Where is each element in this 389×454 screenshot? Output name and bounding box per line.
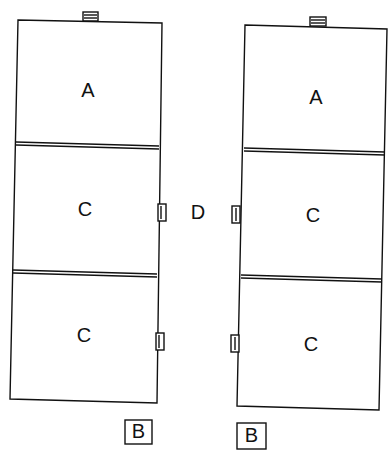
right-top-nub: [310, 17, 326, 26]
right-base-b: B: [237, 423, 266, 449]
connector-d-label: D: [191, 201, 205, 223]
left-top-nub: [83, 12, 98, 21]
left-module-c-lower-label: C: [77, 324, 91, 346]
right-module-a-label: A: [309, 86, 323, 108]
left-base-b: B: [125, 420, 152, 444]
left-side-tab-upper: [158, 204, 166, 221]
left-module-a-label: A: [81, 79, 95, 101]
right-module-c-upper-label: C: [306, 204, 320, 226]
right-side-tab-lower: [231, 335, 239, 352]
left-module-c-upper-label: C: [78, 198, 92, 220]
right-module-c-lower-label: C: [304, 333, 318, 355]
left-base-b-label: B: [132, 420, 145, 442]
right-base-b-label: B: [245, 424, 258, 446]
left-side-tab-lower: [156, 333, 164, 350]
right-side-tab-upper: [232, 206, 240, 223]
module-stacks-diagram: A C C A C C D B B: [0, 0, 389, 454]
